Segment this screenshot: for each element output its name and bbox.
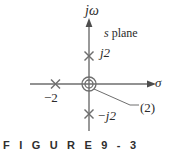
zero-multiplicity-label: (2) [140, 101, 155, 114]
jomega-axis-arrowhead [86, 18, 93, 27]
figure-panel: jω s plane j2 σ −2 (2) −j2 F I G U R E 9… [0, 0, 171, 164]
pole-label-plus-j2: j2 [100, 46, 110, 59]
pole-label-minus-2: −2 [44, 91, 58, 104]
jomega-axis-label: jω [85, 4, 99, 18]
s-plane-label-text: plane [109, 26, 138, 40]
zero-multiplicity-leader-line [94, 89, 139, 105]
s-plane-label: s plane [104, 27, 138, 39]
sigma-axis-label: σ [155, 76, 161, 89]
pole-label-minus-j2: −j2 [97, 109, 116, 122]
figure-caption: F I G U R E 9 - 3 [3, 139, 139, 151]
